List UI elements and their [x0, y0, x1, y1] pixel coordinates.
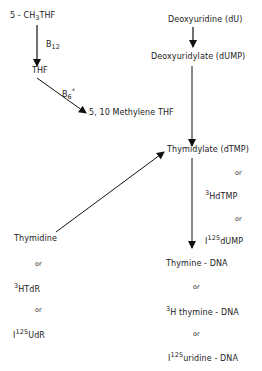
methylene-thf-label: 5, 10 Methylene THF [89, 108, 174, 118]
or-label: or [193, 283, 200, 291]
thymidylate-label: Thymidylate (dTMP) [167, 145, 249, 155]
i125-dump-label: I125dUMP [205, 233, 243, 247]
hdtmp-label: 3HdTMP [205, 188, 237, 202]
i125-udr-text: UdR [28, 331, 45, 340]
i125-dump-sup: 125 [207, 234, 220, 242]
h-thymine-dna-text: H thymine - DNA [170, 308, 239, 317]
hdtmp-text: HdTMP [209, 192, 237, 201]
methyl-thf-prefix: 5 - CH [10, 11, 35, 20]
i125-dump-text: dUMP [220, 237, 243, 246]
i125-uridine-dna-text: uridine - DNA [183, 354, 238, 363]
or-label: or [35, 260, 42, 268]
or-label: or [193, 330, 200, 338]
b12-sub: 12 [52, 43, 60, 51]
thf-label: THF [32, 66, 48, 76]
or-label: or [235, 215, 242, 223]
thymidine-label: Thymidine [14, 234, 57, 244]
h-thymine-dna-label: 3H thymine - DNA [166, 304, 239, 318]
or-label: or [235, 169, 242, 177]
b12-label: B12 [46, 40, 60, 52]
b6-label: B6* [62, 86, 75, 102]
thymine-dna-label: Thymine - DNA [166, 259, 228, 269]
i125-uridine-dna-sup: 125 [170, 351, 183, 359]
i125-udr-label: I125UdR [13, 327, 45, 341]
deoxyuridylate-label: Deoxyuridylate (dUMP) [151, 52, 245, 62]
b6-asterisk: * [72, 87, 75, 95]
htdr-text: HTdR [18, 285, 40, 294]
htdr-label: 3HTdR [14, 281, 40, 295]
deoxyuridine-label: Deoxyuridine (dU) [168, 15, 243, 25]
methyl-thf-label: 5 - CH3THF [10, 11, 55, 23]
i125-udr-sup: 125 [15, 328, 28, 336]
i125-uridine-dna-label: I125uridine - DNA [168, 350, 238, 364]
or-label: or [35, 306, 42, 314]
methyl-thf-suffix: THF [40, 11, 56, 20]
arrow-thymidine-to-dtmp [56, 152, 164, 232]
